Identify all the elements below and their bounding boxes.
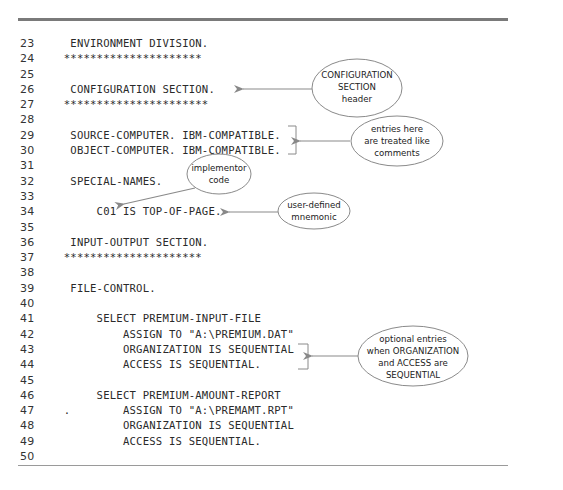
callout-text: SECTION <box>338 82 376 92</box>
callout-text: entries here <box>371 124 423 134</box>
bracket-shape <box>288 126 296 154</box>
callout-text: when ORGANIZATION <box>367 346 459 356</box>
callout-entries-comments: entries here are treated like comments <box>288 116 443 166</box>
callout-configuration-section-header: CONFIGURATION SECTION header <box>243 59 402 117</box>
callout-user-defined-mnemonic: user-defined mnemonic <box>229 193 350 229</box>
ellipse-shape <box>278 193 350 229</box>
callout-text: and ACCESS are <box>378 358 448 368</box>
ellipse-shape <box>187 154 251 194</box>
callout-text: are treated like <box>364 136 429 146</box>
annotation-layer: CONFIGURATION SECTION header entries her… <box>0 0 563 490</box>
callout-text: code <box>209 175 230 185</box>
callout-text: SEQUENTIAL <box>386 370 440 380</box>
callout-text: user-defined <box>287 200 341 210</box>
bracket-shape <box>298 344 308 369</box>
callout-text: header <box>342 94 373 104</box>
callout-text: optional entries <box>379 334 447 344</box>
bottom-rule <box>18 465 508 466</box>
callout-text: implementor <box>191 163 247 173</box>
arrow-icon <box>124 188 195 204</box>
callout-text: comments <box>374 148 420 158</box>
callout-text: mnemonic <box>291 212 337 222</box>
callout-optional-entries: optional entries when ORGANIZATION and A… <box>298 326 468 386</box>
callout-implementor-code: implementor code <box>124 154 251 204</box>
callout-text: CONFIGURATION <box>321 70 392 80</box>
